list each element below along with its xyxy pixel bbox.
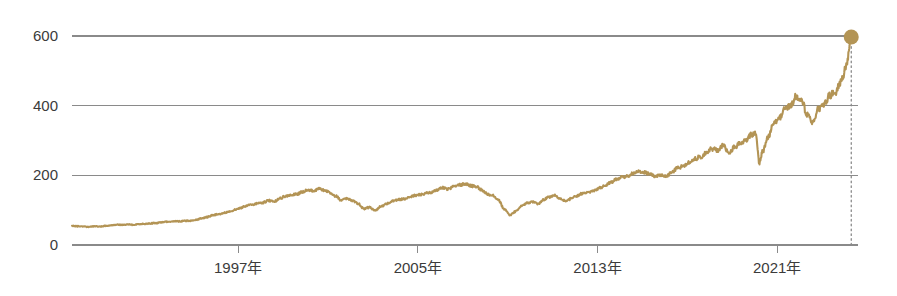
y-tick-label: 0 bbox=[50, 236, 58, 253]
x-tick-label: 2013年 bbox=[573, 259, 621, 276]
y-tick-label: 600 bbox=[33, 27, 58, 44]
x-axis-tick-labels: 1997年2005年2013年2021年 bbox=[214, 259, 801, 276]
series-line bbox=[72, 35, 851, 227]
x-tick-label: 2005年 bbox=[394, 259, 442, 276]
y-tick-label: 200 bbox=[33, 166, 58, 183]
x-tick-label: 1997年 bbox=[214, 259, 262, 276]
y-tick-label: 400 bbox=[33, 97, 58, 114]
end-point-marker bbox=[844, 30, 859, 45]
line-chart: 0200400600 1997年2005年2013年2021年 bbox=[0, 0, 897, 296]
chart-container: 0200400600 1997年2005年2013年2021年 bbox=[0, 0, 897, 296]
y-axis-tick-labels: 0200400600 bbox=[33, 27, 58, 253]
gridlines-group bbox=[72, 36, 858, 245]
series-group bbox=[72, 35, 851, 227]
x-tick-label: 2021年 bbox=[753, 259, 801, 276]
end-marker-group bbox=[844, 30, 859, 245]
x-axis-tick-marks bbox=[238, 245, 777, 253]
